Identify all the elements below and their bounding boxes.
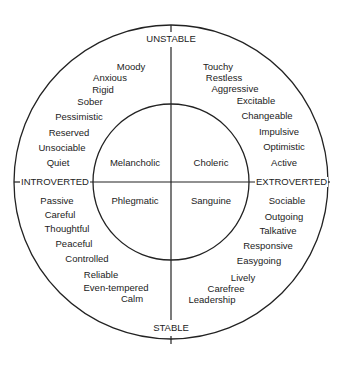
trait-sociable: Sociable xyxy=(269,196,305,206)
trait-thoughtful: Thoughtful xyxy=(45,224,90,234)
axis-label-extroverted: EXTROVERTED xyxy=(255,177,328,187)
axis-label-stable: STABLE xyxy=(152,323,190,333)
trait-reliable: Reliable xyxy=(84,270,118,280)
axis-label-introverted: INTROVERTED xyxy=(20,177,90,187)
trait-easygoing: Easygoing xyxy=(237,256,281,266)
trait-rigid: Rigid xyxy=(92,85,114,95)
temperament-sanguine: Sanguine xyxy=(191,196,231,206)
trait-careful: Careful xyxy=(45,210,76,220)
trait-responsive: Responsive xyxy=(243,241,293,251)
temperament-melancholic: Melancholic xyxy=(110,158,160,168)
trait-reserved: Reserved xyxy=(49,128,90,138)
trait-lively: Lively xyxy=(231,273,255,283)
trait-aggressive: Aggressive xyxy=(212,84,259,94)
trait-restless: Restless xyxy=(206,73,242,83)
trait-quiet: Quiet xyxy=(47,158,70,168)
trait-optimistic: Optimistic xyxy=(263,142,305,152)
trait-peaceful: Peaceful xyxy=(56,239,93,249)
temperament-phlegmatic: Phlegmatic xyxy=(112,196,159,206)
trait-talkative: Talkative xyxy=(260,226,297,236)
trait-passive: Passive xyxy=(40,196,73,206)
trait-moody: Moody xyxy=(117,62,146,72)
trait-carefree: Carefree xyxy=(208,284,245,294)
trait-outgoing: Outgoing xyxy=(265,212,304,222)
trait-active: Active xyxy=(271,158,297,168)
temperament-choleric: Choleric xyxy=(194,158,229,168)
trait-even-tempered: Even-tempered xyxy=(84,283,149,293)
trait-impulsive: Impulsive xyxy=(259,127,299,137)
trait-leadership: Leadership xyxy=(188,295,235,305)
trait-calm: Calm xyxy=(121,294,143,304)
trait-unsociable: Unsociable xyxy=(39,143,86,153)
trait-sober: Sober xyxy=(77,97,102,107)
trait-anxious: Anxious xyxy=(93,73,127,83)
trait-excitable: Excitable xyxy=(237,96,276,106)
trait-changeable: Changeable xyxy=(241,111,292,121)
trait-pessimistic: Pessimistic xyxy=(55,112,103,122)
axis-label-unstable: UNSTABLE xyxy=(145,34,196,44)
trait-controlled: Controlled xyxy=(65,254,108,264)
trait-touchy: Touchy xyxy=(203,62,233,72)
